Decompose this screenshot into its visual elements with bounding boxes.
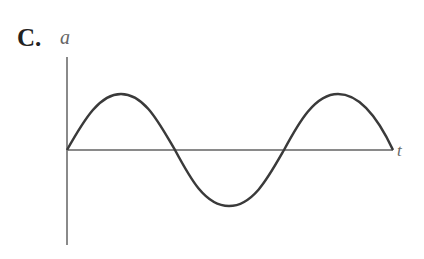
sine-graph (0, 0, 424, 259)
